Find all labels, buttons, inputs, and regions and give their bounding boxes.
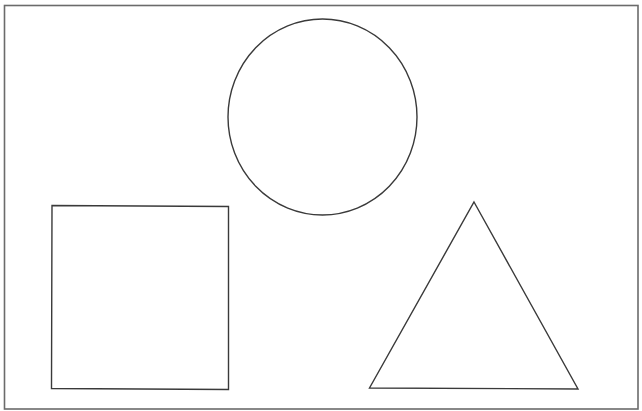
diagram-canvas	[0, 0, 642, 411]
